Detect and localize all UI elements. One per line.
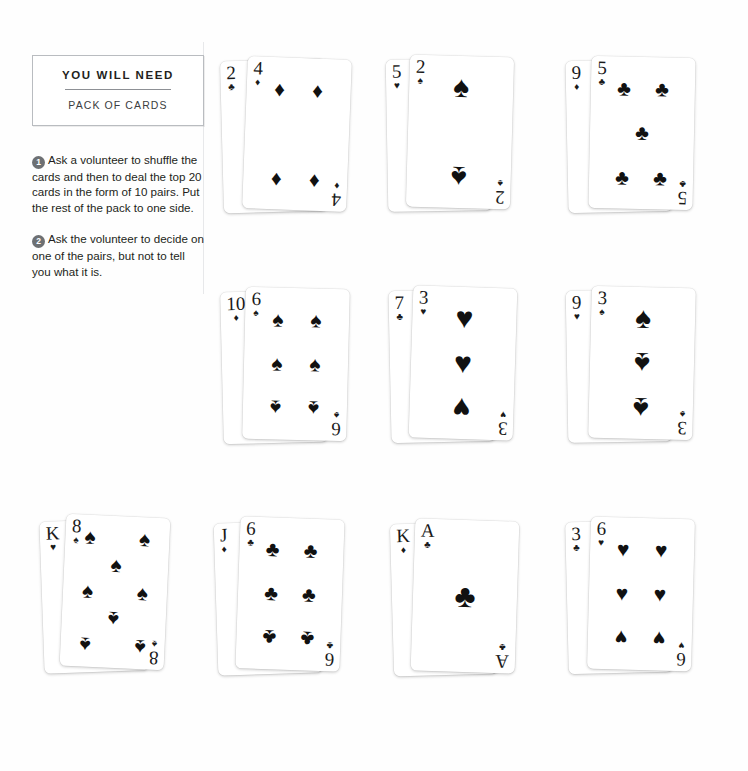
card-front-1[interactable]: 4 ♦ ♦ ♦ ♦ ♦ 4 ♦ — [242, 56, 352, 212]
card-corner-index: 2 ♣ — [226, 64, 236, 92]
card-suit-icon: ♣ — [677, 179, 687, 189]
card-rank: 6 — [676, 651, 686, 668]
you-will-need-item: PACK OF CARDS — [43, 99, 193, 111]
card-corner-index-bottom: 5 ♣ — [677, 179, 687, 207]
card-front-5[interactable]: 3 ♥ ♥ ♥ ♥ 3 ♥ — [409, 285, 518, 440]
card-rank: 3 — [571, 525, 581, 542]
card-front-2[interactable]: 2 ♠ ♠ ♠ 2 ♠ — [406, 55, 514, 210]
pip: ♠ — [308, 398, 320, 419]
card-pips: ♣ ♣ ♣ ♣ ♣ — [603, 65, 682, 201]
pip: ♣ — [300, 629, 315, 650]
card-front-8[interactable]: 6 ♣ ♣ ♣ ♣ ♣ ♣ ♣ 6 ♣ — [235, 516, 344, 672]
pip: ♠ — [79, 634, 91, 655]
card-rank: 6 — [324, 651, 334, 668]
pip: ♠ — [310, 309, 322, 330]
card-rank: 2 — [226, 64, 236, 81]
pip: ♥ — [455, 303, 474, 334]
card-rank: A — [495, 653, 509, 670]
card-rank: 4 — [331, 191, 341, 208]
card-suit-icon: ♦ — [572, 82, 582, 92]
instruction-steps: 1Ask a volunteer to shuffle the cards an… — [32, 152, 204, 279]
step-number-badge-2: 2 — [32, 235, 45, 248]
card-pips: ♣ — [425, 528, 505, 664]
pip: ♠ — [82, 580, 94, 601]
pip: ♠ — [270, 398, 282, 419]
pip: ♥ — [652, 628, 665, 649]
card-rank: 10 — [226, 295, 245, 312]
card-corner-index: J ♦ — [220, 526, 228, 554]
pip: ♣ — [653, 167, 667, 188]
pip: ♣ — [615, 167, 629, 188]
pip: ♠ — [634, 348, 651, 378]
pip: ♠ — [450, 161, 467, 191]
card-corner-index: 3 ♣ — [571, 525, 581, 553]
card-suit-icon: ♥ — [572, 312, 582, 322]
card-pips: ♥ ♥ ♥ — [423, 295, 503, 431]
card-rank: K — [45, 524, 59, 541]
pip: ♣ — [303, 539, 318, 560]
card-front-3[interactable]: 5 ♣ ♣ ♣ ♣ ♣ ♣ 5 ♣ — [588, 56, 695, 210]
card-rank: 6 — [331, 421, 341, 438]
card-suit-icon: ♣ — [325, 640, 335, 650]
card-rank: J — [220, 526, 228, 543]
card-corner-index: 7 ♣ — [394, 294, 404, 322]
card-corner-index-bottom: A ♣ — [495, 642, 510, 670]
card-pips: ♥ ♥ ♥ ♥ ♥ ♥ — [601, 526, 680, 662]
card-front-7[interactable]: 8 ♠ ♠ ♠ ♠ ♠ ♠ ♠ ♠ ♠ 8 ♠ — [60, 514, 171, 671]
card-corner-index: 10 ♦ — [226, 295, 246, 323]
card-suit-icon: ♥ — [46, 542, 60, 552]
pip: ♣ — [454, 580, 476, 613]
pip: ♠ — [635, 303, 652, 333]
card-suit-icon: ♦ — [220, 544, 228, 554]
card-corner-index-bottom: 3 ♠ — [677, 409, 687, 437]
card-corner-index-bottom: 4 ♦ — [331, 180, 342, 208]
pip: ♠ — [84, 526, 96, 547]
pip: ♦ — [271, 167, 283, 188]
card-rank: 8 — [148, 650, 158, 667]
card-rank: 3 — [677, 420, 687, 437]
pip: ♥ — [614, 627, 627, 648]
card-pips: ♠ ♠ ♠ ♠ ♠ ♠ — [256, 296, 335, 432]
card-front-10[interactable]: 6 ♥ ♥ ♥ ♥ ♥ ♥ ♥ 6 ♥ — [587, 517, 695, 672]
card-rank: 2 — [494, 189, 504, 206]
card-pips: ♦ ♦ ♦ ♦ — [256, 66, 337, 203]
card-corner-index-bottom: 6 ♣ — [324, 640, 334, 668]
card-rank: 3 — [497, 420, 507, 437]
you-will-need-title: YOU WILL NEED — [43, 69, 193, 81]
card-rank: 5 — [392, 63, 402, 80]
pip: ♣ — [617, 77, 631, 98]
card-pips: ♠ ♠ — [420, 64, 500, 200]
pip: ♠ — [309, 354, 321, 375]
pip: ♠ — [139, 528, 151, 549]
card-suit-icon: ♣ — [227, 82, 237, 92]
card-corner-index: 9 ♦ — [571, 64, 581, 92]
card-front-6[interactable]: 3 ♠ ♠ ♠ ♠ 3 ♠ — [588, 286, 696, 440]
card-front-9[interactable]: A ♣ ♣ A ♣ — [411, 518, 520, 673]
card-front-4[interactable]: 6 ♠ ♠ ♠ ♠ ♠ ♠ ♠ 6 ♠ — [242, 287, 350, 441]
card-rank: 5 — [677, 190, 687, 207]
pip: ♣ — [265, 538, 280, 559]
card-corner-index: K ♥ — [45, 524, 60, 552]
card-corner-index: 9 ♥ — [572, 294, 582, 322]
card-corner-index-bottom: 6 ♥ — [676, 640, 686, 668]
instruction-step-2: 2Ask the volunteer to decide on one of t… — [32, 231, 204, 279]
pip: ♦ — [312, 79, 324, 100]
card-suit-icon: ♥ — [392, 81, 402, 91]
instruction-step-1: 1Ask a volunteer to shuffle the cards an… — [32, 152, 204, 215]
pip: ♥ — [452, 392, 471, 423]
card-corner-index: 5 ♥ — [392, 63, 402, 91]
pip: ♦ — [274, 78, 286, 99]
card-corner-index-bottom: 6 ♠ — [331, 410, 341, 438]
pip: ♣ — [655, 78, 669, 99]
pip: ♥ — [655, 539, 668, 560]
step-text-1: Ask a volunteer to shuffle the cards and… — [32, 153, 202, 214]
you-will-need-box: YOU WILL NEED PACK OF CARDS — [32, 55, 204, 126]
card-suit-icon: ♣ — [572, 543, 582, 553]
card-corner-index-bottom: 2 ♠ — [494, 178, 504, 206]
pip: ♥ — [653, 584, 666, 605]
pip: ♠ — [136, 582, 148, 603]
pip: ♠ — [272, 308, 284, 329]
pip: ♠ — [271, 353, 283, 374]
card-corner-index: K ♦ — [396, 527, 411, 555]
pip: ♠ — [108, 608, 120, 629]
